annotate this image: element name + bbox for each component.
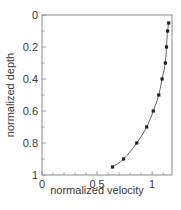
y-tick-label: 1 — [32, 169, 38, 181]
data-point-marker — [167, 21, 170, 24]
data-point-marker — [111, 165, 114, 168]
plot-border — [42, 15, 172, 175]
y-tick-label: 0.8 — [23, 137, 38, 149]
data-point-marker — [164, 61, 167, 64]
data-point-marker — [157, 93, 160, 96]
data-point-marker — [152, 109, 155, 112]
data-point-marker — [135, 141, 138, 144]
y-tick-label: 0.6 — [23, 105, 38, 117]
y-tick-label: 0.2 — [23, 41, 38, 53]
x-tick-label: 1 — [149, 178, 155, 190]
data-point-marker — [145, 125, 148, 128]
plot-frame — [42, 15, 172, 175]
data-point-marker — [122, 157, 125, 160]
y-tick-label: 0.4 — [23, 73, 38, 85]
y-tick-label: 0 — [32, 9, 38, 21]
data-point-marker — [160, 77, 163, 80]
y-axis-label: normalized depth — [4, 53, 16, 137]
y-tick-labels: 00.20.40.60.81 — [23, 9, 38, 181]
data-point-markers — [111, 21, 170, 168]
x-tick-label: 0 — [39, 178, 45, 190]
velocity-depth-chart: 00.51 00.20.40.60.81 normalized velocity… — [0, 0, 181, 210]
x-axis-label: normalized velocity — [50, 184, 144, 196]
minor-ticks — [42, 15, 163, 175]
data-point-marker — [166, 29, 169, 32]
data-point-marker — [165, 45, 168, 48]
